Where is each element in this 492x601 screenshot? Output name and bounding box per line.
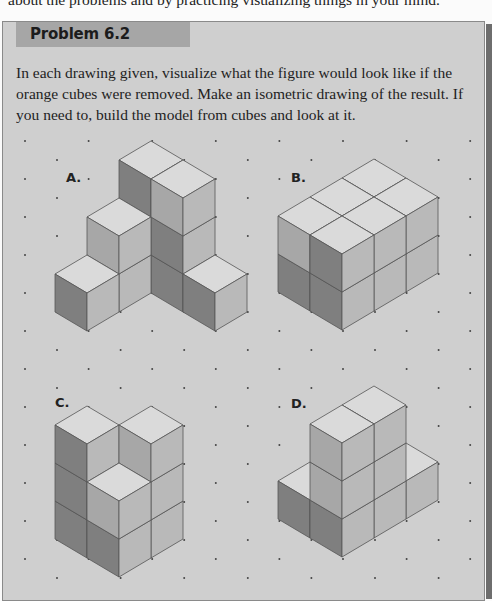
figure-label-b: B.: [291, 170, 306, 185]
figure-label-d: D.: [291, 396, 307, 411]
figure-d: [278, 386, 438, 557]
figure-a: [55, 141, 247, 331]
figure-label-c: C.: [55, 395, 69, 410]
figure-label-a: A.: [66, 170, 81, 185]
figure-c: [55, 406, 183, 577]
